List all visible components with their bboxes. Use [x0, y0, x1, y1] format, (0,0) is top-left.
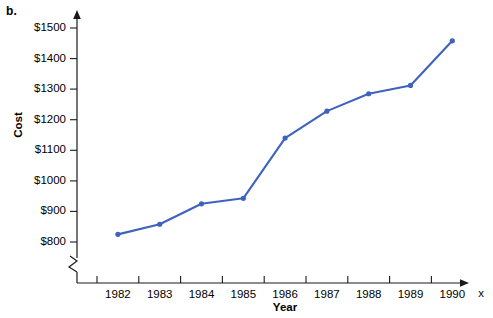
x-axis — [77, 279, 469, 287]
data-point — [199, 201, 204, 206]
data-point — [241, 196, 246, 201]
x-tick-label: 1987 — [314, 288, 340, 300]
y-tick-label: $1200 — [34, 113, 66, 125]
data-point — [157, 222, 162, 227]
y-axis-arrow-icon — [73, 10, 81, 19]
x-tick-label: 1986 — [272, 288, 298, 300]
x-tick-label: 1989 — [398, 288, 424, 300]
x-tick-label: 1982 — [105, 288, 131, 300]
y-tick-label: $1500 — [34, 21, 66, 33]
y-axis-break-icon — [69, 256, 77, 272]
x-tick-label: 1990 — [440, 288, 466, 300]
data-point — [408, 83, 413, 88]
x-tick-label: 1988 — [356, 288, 382, 300]
y-tick-label: $1300 — [34, 82, 66, 94]
y-tick-label: $1400 — [34, 52, 66, 64]
data-series-cost — [115, 38, 455, 237]
data-point — [366, 91, 371, 96]
data-point — [115, 232, 120, 237]
x-axis-variable-label: x — [478, 287, 484, 299]
y-tick-label: $800 — [40, 235, 66, 247]
x-tick-label: 1985 — [231, 288, 257, 300]
x-tick-group: 1982 1983 1984 1985 1986 1987 1988 1989 … — [97, 276, 465, 300]
x-tick-label: 1984 — [189, 288, 215, 300]
x-tick-label: 1983 — [147, 288, 173, 300]
x-axis-title: Year — [273, 301, 298, 313]
data-point — [324, 109, 329, 114]
y-tick-label: $900 — [40, 204, 66, 216]
y-axis-title: Cost — [12, 112, 24, 138]
x-axis-arrow-icon — [460, 279, 469, 287]
y-tick-group: $800 $900 $1000 $1100 $1200 $1300 $1400 … — [34, 21, 77, 247]
data-point — [283, 135, 288, 140]
y-tick-label: $1000 — [34, 174, 66, 186]
y-tick-label: $1100 — [35, 143, 66, 155]
series-points — [115, 38, 455, 237]
data-point — [450, 38, 455, 43]
line-chart: $800 $900 $1000 $1100 $1200 $1300 $1400 … — [0, 0, 493, 318]
figure-canvas: b. $800 $900 $1000 $1100 $1200 — [0, 0, 493, 318]
